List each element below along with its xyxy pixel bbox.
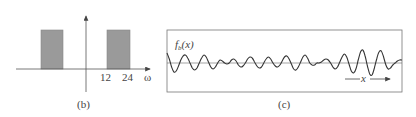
caption-c: (c) (278, 98, 291, 111)
panel-c-signal: fb(x) x (c) (167, 30, 402, 111)
signal-waveform (167, 50, 402, 76)
x-label: x (360, 72, 366, 84)
figure: 12 24 ω (b) fb(x) x (c) (0, 0, 416, 117)
tick-label-12: 12 (100, 71, 111, 83)
negative-band-rect (41, 30, 63, 69)
function-label: fb(x) (175, 38, 194, 52)
caption-b: (b) (77, 98, 90, 111)
omega-label: ω (144, 71, 151, 83)
tick-label-24: 24 (122, 71, 134, 83)
positive-band-rect (107, 30, 130, 69)
panel-b-spectrum: 12 24 ω (b) (16, 16, 151, 111)
